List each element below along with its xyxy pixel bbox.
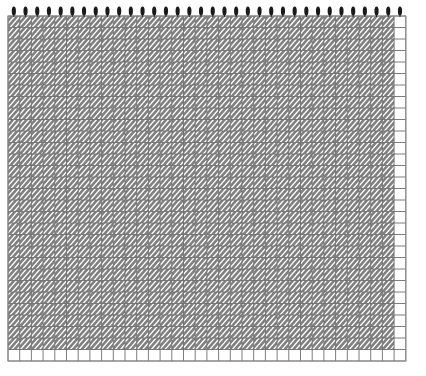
top-marker-ellipse	[211, 6, 215, 15]
top-marker-ellipse	[47, 6, 51, 15]
top-marker-ellipse	[140, 6, 144, 15]
top-marker-ellipse	[363, 6, 367, 15]
top-marker-ellipse	[82, 6, 86, 15]
top-marker-ellipse	[70, 6, 74, 15]
top-marker-ellipse	[386, 6, 390, 15]
top-marker-ellipse	[374, 6, 378, 15]
top-marker-ellipse	[398, 6, 402, 15]
top-marker-ellipse	[164, 6, 168, 15]
top-marker-ellipse	[105, 6, 109, 15]
top-marker-ellipse	[222, 6, 226, 15]
top-marker-ellipse	[281, 6, 285, 15]
top-marker-ellipse	[199, 6, 203, 15]
top-marker-ellipse	[94, 6, 98, 15]
top-marker-ellipse	[117, 6, 121, 15]
top-marker-ellipse	[351, 6, 355, 15]
top-marker-ellipse	[176, 6, 180, 15]
top-marker-ellipse	[269, 6, 273, 15]
top-marker-ellipse	[293, 6, 297, 15]
top-marker-ellipse	[59, 6, 63, 15]
grid-pattern-figure	[0, 0, 426, 376]
top-marker-ellipse	[328, 6, 332, 15]
top-marker-ellipse	[35, 6, 39, 15]
top-marker-ellipse	[234, 6, 238, 15]
top-marker-ellipse	[304, 6, 308, 15]
top-marker-ellipse	[316, 6, 320, 15]
top-marker-ellipse	[129, 6, 133, 15]
top-marker-ellipse	[152, 6, 156, 15]
top-marker-ellipse	[12, 6, 16, 15]
hatch-fill-layer	[0, 14, 418, 352]
top-marker-ellipse	[187, 6, 191, 15]
top-marker-ellipse	[257, 6, 261, 15]
top-marker-ellipse	[339, 6, 343, 15]
pattern-canvas	[0, 0, 426, 376]
top-marker-ellipse	[23, 6, 27, 15]
top-marker-ellipse	[246, 6, 250, 15]
